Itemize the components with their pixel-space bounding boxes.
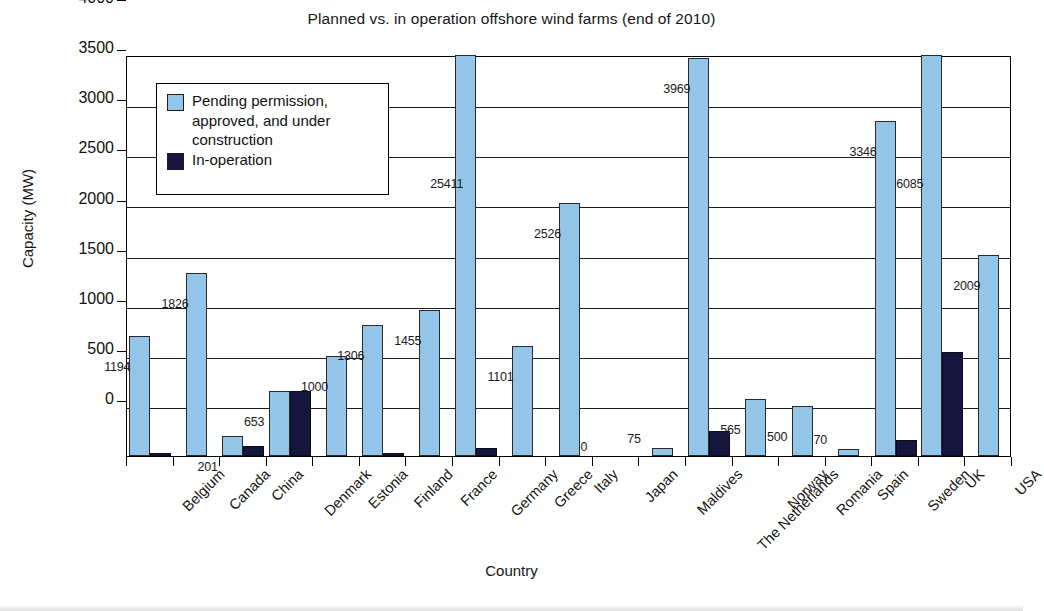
- y-axis-tick-mark: [117, 351, 126, 352]
- bar-planned[interactable]: [978, 255, 999, 456]
- x-axis-title: Country: [0, 562, 1023, 579]
- bar-planned[interactable]: [838, 449, 859, 456]
- bar-planned[interactable]: [362, 325, 383, 456]
- legend-item-planned: Pending permission, approved, and under …: [167, 91, 388, 150]
- x-axis-tick-mark: [173, 457, 174, 466]
- bar-in-operation[interactable]: [896, 440, 917, 456]
- bar-planned[interactable]: [512, 346, 533, 456]
- bar-planned[interactable]: [792, 406, 813, 456]
- x-axis-tick-mark: [312, 457, 313, 466]
- bar-value-label: 1455: [394, 334, 421, 348]
- x-axis-tick-mark: [964, 457, 965, 466]
- x-axis-label-china: China: [268, 466, 306, 504]
- bar-planned[interactable]: [559, 203, 580, 456]
- bar-group: 3346: [872, 57, 919, 456]
- y-axis-tick-mark: [117, 0, 126, 1]
- bar-planned[interactable]: [222, 436, 243, 456]
- bar-group: 1455: [406, 57, 453, 456]
- bar-planned[interactable]: [455, 55, 476, 456]
- bar-planned[interactable]: [326, 356, 347, 456]
- chart-legend: Pending permission, approved, and under …: [156, 83, 389, 195]
- bar-value-label: 1306: [337, 349, 364, 363]
- x-axis-tick-mark: [825, 457, 826, 466]
- x-axis-tick-mark: [405, 457, 406, 466]
- bar-group: 3969: [686, 57, 733, 456]
- bar-planned[interactable]: [875, 121, 896, 456]
- legend-label-planned-line3: construction: [192, 130, 330, 150]
- bar-planned[interactable]: [745, 399, 766, 456]
- chart-title: Planned vs. in operation offshore wind f…: [0, 10, 1023, 28]
- bar-value-label: 3969: [663, 82, 690, 96]
- x-axis-label-france: France: [457, 466, 500, 509]
- bar-group: 70: [826, 57, 873, 456]
- bar-value-label: 1101: [487, 370, 513, 384]
- x-axis-tick-mark: [219, 457, 220, 466]
- x-axis-label-usa: USA: [1011, 466, 1043, 498]
- bar-value-label: 2009: [953, 279, 980, 293]
- y-axis-tick-mark: [117, 50, 126, 51]
- x-axis-tick-mark: [871, 457, 872, 466]
- legend-item-in-operation: In-operation: [167, 150, 388, 170]
- x-axis-label-sweden: Sweden: [925, 466, 973, 514]
- bar-planned[interactable]: [186, 273, 207, 456]
- legend-label-in-operation: In-operation: [192, 150, 272, 170]
- x-axis-tick-mark: [359, 457, 360, 466]
- bar-value-label: 6085: [896, 177, 923, 191]
- x-axis-tick-mark: [732, 457, 733, 466]
- legend-label-planned: Pending permission, approved, and under …: [192, 91, 330, 150]
- x-axis-tick-mark: [778, 457, 779, 466]
- x-axis-label-maldives: Maldives: [693, 466, 745, 518]
- x-axis-label-finland: Finland: [411, 466, 456, 511]
- bar-value-label: 565: [720, 423, 740, 437]
- bar-value-label: 1194: [104, 360, 130, 374]
- bar-value-label: 0: [581, 440, 588, 454]
- bar-in-operation[interactable]: [942, 352, 963, 456]
- y-axis-tick-mark: [117, 201, 126, 202]
- x-axis-label-italy: Italy: [591, 466, 621, 496]
- bar-group: 25411: [453, 57, 500, 456]
- bar-planned[interactable]: [921, 55, 942, 456]
- legend-label-planned-line1: Pending permission,: [192, 91, 330, 111]
- bar-in-operation[interactable]: [383, 453, 404, 456]
- y-axis-ticks: 05001000150020002500300035004000: [0, 0, 126, 401]
- dark-navy-swatch-icon: [167, 153, 184, 170]
- bar-planned[interactable]: [269, 391, 290, 456]
- bar-group: 565: [733, 57, 780, 456]
- x-axis-tick-mark: [452, 457, 453, 466]
- bar-group: 500: [779, 57, 826, 456]
- x-axis-tick-mark: [918, 457, 919, 466]
- x-axis-tick-mark: [266, 457, 267, 466]
- bar-group: 1101: [500, 57, 547, 456]
- page-bottom-edge: [0, 605, 1023, 611]
- x-axis-tick-mark: [545, 457, 546, 466]
- bar-value-label: 653: [244, 415, 264, 429]
- bar-in-operation[interactable]: [290, 391, 311, 456]
- x-axis-label-canada: Canada: [226, 466, 273, 513]
- bar-value-label: 75: [627, 432, 641, 446]
- bar-in-operation[interactable]: [150, 453, 171, 456]
- bar-value-label: 3346: [850, 145, 877, 159]
- bar-planned[interactable]: [688, 58, 709, 456]
- legend-label-planned-line2: approved, and under: [192, 111, 330, 131]
- bar-group: 2009: [965, 57, 1012, 456]
- y-axis-tick-mark: [117, 100, 126, 101]
- bar-in-operation[interactable]: [476, 448, 497, 456]
- y-axis-tick-mark: [117, 301, 126, 302]
- x-axis-tick-mark: [126, 457, 127, 466]
- bar-value-label: 1826: [161, 297, 188, 311]
- bar-group: 6085: [919, 57, 966, 456]
- x-axis-label-japan: Japan: [642, 466, 681, 505]
- bar-value-label: 1000: [301, 380, 328, 394]
- bar-value-label: 25411: [430, 177, 463, 191]
- x-axis-label-estonia: Estonia: [365, 466, 411, 512]
- bar-planned[interactable]: [129, 336, 150, 456]
- bar-group: 0: [593, 57, 640, 456]
- bar-value-label: 500: [767, 430, 787, 444]
- bar-in-operation[interactable]: [243, 446, 264, 456]
- y-axis-tick-mark: [117, 150, 126, 151]
- bar-planned[interactable]: [652, 448, 673, 456]
- bar-planned[interactable]: [419, 310, 440, 456]
- x-axis-tick-mark: [499, 457, 500, 466]
- bar-group: 2526: [546, 57, 593, 456]
